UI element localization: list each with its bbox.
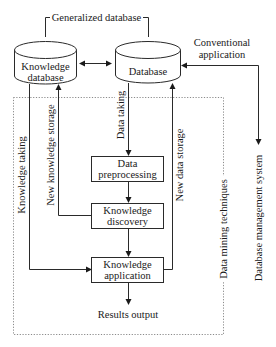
data-preprocessing-node: Data preprocessing <box>92 157 164 182</box>
dbms-connector <box>181 63 262 146</box>
knowledge-discovery-label-1: Knowledge <box>103 205 152 216</box>
data-mining-techniques-label: Data mining techniques <box>218 179 229 279</box>
database-node: Database <box>116 42 181 84</box>
data-preprocessing-label-1: Data <box>118 158 138 169</box>
new-knowledge-storage-edge <box>56 84 92 216</box>
knowledge-discovery-label-2: discovery <box>107 216 149 227</box>
conventional-application-label-2: application <box>199 49 246 60</box>
data-taking-edge <box>126 83 132 156</box>
knowledge-discovery-node: Knowledge discovery <box>92 204 164 229</box>
knowledge-taking-edge <box>30 84 93 273</box>
knowledge-database-label-1: Knowledge <box>21 61 70 72</box>
database-management-system-label: Database management system <box>253 155 264 282</box>
knowledge-database-label-2: database <box>27 72 63 83</box>
knowledge-taking-label: Knowledge taking <box>16 136 27 214</box>
data-taking-label: Data taking <box>115 90 126 139</box>
database-label: Database <box>129 66 168 77</box>
new-knowledge-storage-label: New knowledge storage <box>45 104 56 206</box>
knowledge-application-label-2: application <box>104 270 151 281</box>
generalized-database-label: Generalized database <box>52 12 142 23</box>
preprocessing-to-discovery-arrow <box>126 182 132 204</box>
data-preprocessing-label-2: preprocessing <box>98 169 157 180</box>
application-to-output-arrow <box>126 283 132 306</box>
knowledge-application-node: Knowledge application <box>92 258 164 283</box>
new-data-storage-label: New data storage <box>174 128 185 201</box>
bidirectional-arrow <box>79 61 112 67</box>
discovery-to-application-arrow <box>126 229 132 258</box>
results-output-label: Results output <box>98 309 158 320</box>
diagram-canvas: Generalized database Knowledge database … <box>0 0 276 347</box>
knowledge-application-label-1: Knowledge <box>103 259 152 270</box>
conventional-application-label-1: Conventional <box>194 37 251 48</box>
generalized-database-bracket: Generalized database <box>46 12 149 37</box>
knowledge-database-node: Knowledge database <box>15 42 77 85</box>
